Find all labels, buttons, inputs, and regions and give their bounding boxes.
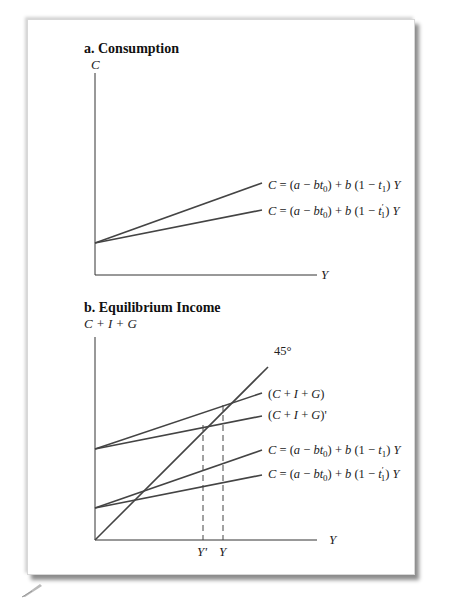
panel-a-line-t1-prime (95, 210, 262, 243)
panel-b-tick-y-prime: Y' (197, 544, 207, 559)
panel-b-label-aggregate-demand: (C + I + G) (268, 387, 325, 401)
panel-b-label-consumption-t1-prime: C = (a − bt0) + b (1 − t′1) Y (268, 465, 401, 483)
panel-a-label-t1-prime: C = (a − bt0) + b (1 − t′1) Y (268, 202, 401, 220)
panel-b-y-axis-label: C + I + G (84, 316, 138, 331)
panel-b-line-consumption-t1 (95, 450, 262, 508)
panel-b-tick-y: Y (219, 544, 228, 559)
panel-b-45-label: 45° (274, 344, 292, 358)
panel-a-label-t1: C = (a − bt0) + b (1 − t1) Y (268, 178, 402, 194)
panel-b-label-aggregate-demand-prime: (C + I + G)' (268, 408, 327, 422)
panel-b-label-consumption-t1: C = (a − bt0) + b (1 − t1) Y (268, 443, 402, 459)
panel-b-x-axis-label: Y (329, 532, 338, 547)
panel-b-line-consumption-t1-prime (95, 475, 262, 508)
panel-a-y-axis-label: C (91, 57, 100, 72)
panel-equilibrium-income: b. Equilibrium Income C + I + G Y 45° (C… (84, 300, 402, 559)
panel-a-title: a. Consumption (84, 41, 179, 56)
panel-a-line-t1 (95, 183, 262, 243)
pencil-icon (20, 582, 44, 598)
panel-b-title: b. Equilibrium Income (84, 300, 221, 315)
panel-b-45-degree-line (95, 367, 268, 540)
panel-consumption: a. Consumption C Y C = (a − bt0) + b (1 … (84, 41, 402, 282)
economics-figure: a. Consumption C Y C = (a − bt0) + b (1 … (0, 0, 454, 599)
panel-a-x-axis-label: Y (321, 267, 330, 282)
